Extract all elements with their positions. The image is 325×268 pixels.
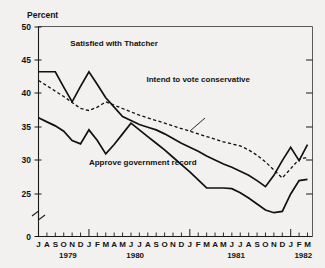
x-month-label: J <box>129 240 133 249</box>
x-month-label: A <box>212 240 218 249</box>
x-month-label: J <box>137 240 141 249</box>
y-tick-label-50: 50 <box>22 22 32 32</box>
x-month-label: O <box>161 240 167 249</box>
x-month-label: O <box>61 240 67 249</box>
x-month-label: F <box>196 240 201 249</box>
x-month-label: S <box>254 240 260 249</box>
x-month-label: D <box>279 240 285 249</box>
x-month-label: J <box>188 240 192 249</box>
x-year-label: 1981 <box>227 251 245 260</box>
series-label-satisfied-with-thatcher: Satisfied with Thatcher <box>70 39 158 48</box>
x-month-label: J <box>36 240 40 249</box>
y-tick-label-0: 0 <box>26 232 31 242</box>
line-chart: 50 45 40 35 30 25 0 Percent JASONDJFMAMJ… <box>0 0 325 268</box>
y-tick-labels: 50 45 40 35 30 25 0 <box>22 22 32 242</box>
plot-frame <box>38 27 313 237</box>
series-label-intend-to-vote-conservative: Intend to vote conservative <box>146 75 250 84</box>
y-tick-label-30: 30 <box>22 155 32 165</box>
x-month-label: F <box>297 240 302 249</box>
x-month-label: A <box>246 240 252 249</box>
chart-figure: 50 45 40 35 30 25 0 Percent JASONDJFMAMJ… <box>0 0 325 268</box>
x-month-label: N <box>271 240 277 249</box>
x-year-label: 1980 <box>126 251 144 260</box>
y-tick-label-35: 35 <box>22 122 32 132</box>
x-month-label: J <box>238 240 242 249</box>
x-year-label: 1979 <box>59 251 77 260</box>
y-axis-break-marker <box>32 211 45 220</box>
y-tick-label-25: 25 <box>22 189 32 199</box>
x-month-label: M <box>102 240 109 249</box>
x-month-label: N <box>170 240 176 249</box>
x-month-label: A <box>145 240 151 249</box>
y-tick-label-40: 40 <box>22 88 32 98</box>
series-line-satisfied-with-thatcher <box>39 72 308 187</box>
x-month-label: D <box>78 240 84 249</box>
y-tick-label-45: 45 <box>22 55 32 65</box>
x-month-label: A <box>44 240 50 249</box>
x-month-label: M <box>220 240 227 249</box>
frame-top-right <box>38 27 313 237</box>
x-month-label: O <box>262 240 268 249</box>
x-month-label: F <box>95 240 100 249</box>
series-label-approve-government-record: Approve government record <box>89 158 197 167</box>
x-month-label: M <box>119 240 126 249</box>
intend-to-vote-leader-line <box>190 118 205 131</box>
series-lines <box>39 72 308 213</box>
x-month-label: J <box>288 240 292 249</box>
x-month-label: D <box>179 240 185 249</box>
y-axis-ticks-right <box>306 60 313 194</box>
x-month-label: M <box>203 240 210 249</box>
x-month-label: S <box>154 240 160 249</box>
x-axis-labels: JASONDJFMAMJJASONDJFMAMJJASONDJFM1979198… <box>36 229 312 260</box>
x-month-label: N <box>69 240 75 249</box>
x-month-label: M <box>304 240 311 249</box>
x-month-label: A <box>111 240 117 249</box>
x-year-label: 1982 <box>294 251 312 260</box>
x-month-label: J <box>230 240 234 249</box>
x-month-label: J <box>87 240 91 249</box>
x-month-label: S <box>53 240 59 249</box>
y-axis-title: Percent <box>27 10 58 20</box>
